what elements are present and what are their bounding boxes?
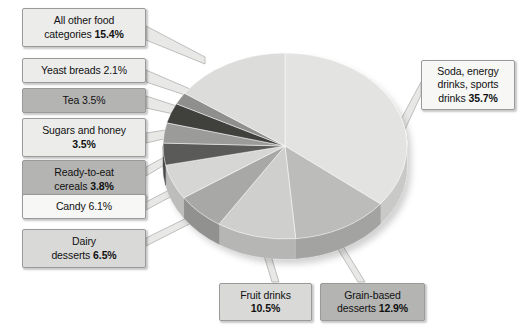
pie-chart-figure: All other food categories 15.4% Yeast br… (0, 0, 530, 334)
callout-text-sugars-and-honey: Sugars and honey 3.5% (27, 124, 141, 150)
callout-fruit-drinks[interactable]: Fruit drinks 10.5% (219, 283, 312, 321)
callout-text-dairy-desserts: Dairy desserts 6.5% (27, 235, 141, 261)
callout-text-yeast-breads: Yeast breads 2.1% (27, 64, 141, 77)
callout-text-soda: Soda, energy drinks, sports drinks 35.7% (426, 65, 510, 104)
callout-tea[interactable]: Tea 3.5% (22, 88, 146, 113)
callout-text-fruit-drinks: Fruit drinks 10.5% (224, 289, 307, 315)
callout-yeast-breads[interactable]: Yeast breads 2.1% (22, 58, 146, 83)
callout-text-all-other-food-categories: All other food categories 15.4% (27, 14, 141, 40)
callout-grain-based-desserts[interactable]: Grain-based desserts 12.9% (320, 283, 425, 321)
callout-text-candy: Candy 6.1% (27, 200, 141, 213)
callout-soda-energy-drinks-sports-drinks[interactable]: Soda, energy drinks, sports drinks 35.7% (421, 60, 515, 110)
callout-text-ready-to-eat-cereals: Ready-to-eat cereals 3.8% (27, 166, 141, 192)
callout-text-tea: Tea 3.5% (27, 94, 141, 107)
callout-all-other-food-categories[interactable]: All other food categories 15.4% (22, 8, 146, 47)
callout-candy[interactable]: Candy 6.1% (22, 194, 146, 219)
callout-text-grain-based-desserts: Grain-based desserts 12.9% (325, 289, 420, 315)
callout-dairy-desserts[interactable]: Dairy desserts 6.5% (22, 229, 146, 268)
callout-sugars-and-honey[interactable]: Sugars and honey 3.5% (22, 118, 146, 157)
